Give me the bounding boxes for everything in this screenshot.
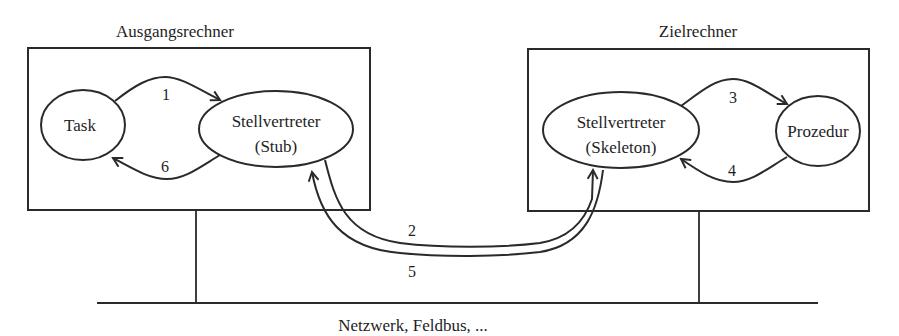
stub-label-line1: Stellvertreter [232, 112, 321, 131]
rpc-diagram: Ausgangsrechner Zielrechner Netzwerk, Fe… [0, 0, 899, 336]
target-host-title: Zielrechner [659, 22, 738, 41]
edge-5-label: 5 [408, 263, 416, 280]
stub-label-line2: (Stub) [255, 137, 298, 156]
edge-3-label: 3 [729, 89, 737, 106]
network-label: Netzwerk, Feldbus, ... [338, 316, 488, 335]
edge-6-label: 6 [161, 158, 169, 175]
task-label: Task [64, 116, 96, 135]
edge-4-label: 4 [728, 162, 736, 179]
edge-2-arrow [325, 160, 593, 247]
source-host-title: Ausgangsrechner [116, 22, 234, 41]
edge-2-label: 2 [408, 222, 416, 239]
skeleton-label-line2: (Skeleton) [586, 138, 657, 157]
procedure-label: Prozedur [787, 122, 849, 141]
edge-5-arrow [312, 170, 603, 256]
edge-1-label: 1 [162, 86, 170, 103]
skeleton-label-line1: Stellvertreter [577, 113, 666, 132]
